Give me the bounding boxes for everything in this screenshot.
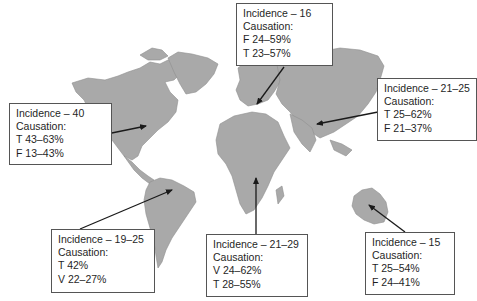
causation-label: Causation: [58, 246, 148, 259]
southeast-asia-islands-landmass [330, 140, 352, 156]
incidence-label: Incidence – 21–29 [213, 238, 301, 251]
arctic-islands-landmass [140, 48, 168, 60]
causation-value: V 22–27% [58, 273, 148, 286]
causation-value: T 25–54% [372, 262, 448, 275]
incidence-label: Incidence – 40 [16, 107, 105, 120]
australia-callout: Incidence – 15 Causation: T 25–54% F 24–… [365, 232, 455, 295]
greenland-landmass [168, 52, 218, 94]
asia-callout: Incidence – 21–25 Causation: T 25–62% F … [377, 78, 477, 141]
causation-value: T 23–57% [243, 47, 326, 60]
causation-value: T 43–63% [16, 133, 105, 146]
madagascar-landmass [276, 186, 284, 204]
causation-label: Causation: [213, 251, 301, 264]
south-america-callout: Incidence – 19–25 Causation: T 42% V 22–… [51, 229, 155, 293]
europe-callout: Incidence – 16 Causation: F 24–59% T 23–… [236, 3, 333, 66]
causation-value: F 13–43% [16, 147, 105, 160]
causation-value: F 24–59% [243, 33, 326, 46]
causation-value: T 42% [58, 259, 148, 272]
causation-value: V 24–62% [213, 264, 301, 277]
causation-label: Causation: [384, 95, 470, 108]
north-america-callout: Incidence – 40 Causation: T 43–63% F 13–… [9, 103, 112, 165]
causation-value: F 21–37% [384, 122, 470, 135]
causation-value: T 25–62% [384, 108, 470, 121]
incidence-label: Incidence – 15 [372, 236, 448, 249]
incidence-label: Incidence – 16 [243, 7, 326, 20]
causation-label: Causation: [243, 20, 326, 33]
africa-callout: Incidence – 21–29 Causation: V 24–62% T … [206, 234, 308, 297]
central-america-landmass [124, 156, 154, 184]
causation-value: F 24–41% [372, 276, 448, 289]
causation-label: Causation: [16, 120, 105, 133]
causation-label: Causation: [372, 249, 448, 262]
causation-value: T 28–55% [213, 278, 301, 291]
incidence-label: Incidence – 19–25 [58, 233, 148, 246]
incidence-label: Incidence – 21–25 [384, 82, 470, 95]
